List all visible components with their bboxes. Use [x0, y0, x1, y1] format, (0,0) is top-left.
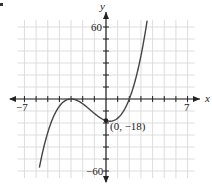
y-axis-up-arrow-icon: [103, 12, 109, 19]
point-marker: [104, 118, 109, 123]
y-min-label: −60: [86, 165, 104, 177]
point-label: (0, −18): [110, 120, 146, 133]
function-curve: [39, 21, 147, 168]
x-axis-label: x: [204, 92, 210, 104]
y-axis-down-arrow-icon: [103, 176, 109, 183]
x-axis-left-arrow-icon: [9, 96, 16, 102]
bullet-marker: [0, 3, 3, 6]
axes: [9, 12, 200, 183]
graph: y x −7 7 60 −60 (0, −18): [0, 0, 212, 185]
x-axis-right-arrow-icon: [193, 96, 200, 102]
x-min-label: −7: [16, 101, 28, 113]
y-axis-label: y: [99, 0, 105, 12]
y-max-label: 60: [91, 21, 103, 33]
x-max-label: 7: [184, 101, 190, 113]
